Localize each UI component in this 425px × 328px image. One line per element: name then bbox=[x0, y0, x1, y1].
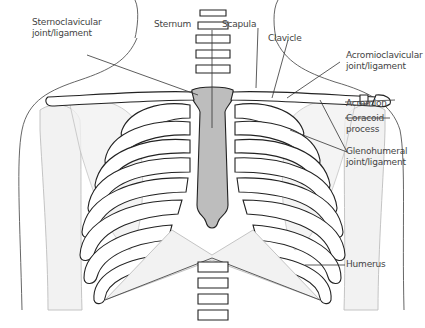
label-acromioclavicular-joint: Acromioclavicular joint/ligament bbox=[346, 50, 423, 72]
label-acromion: Acromion bbox=[346, 98, 387, 109]
label-coracoid-line1: Coracoid bbox=[346, 113, 384, 124]
anatomy-diagram: Sternoclavicular joint/ligament Sternum … bbox=[0, 0, 425, 328]
label-sternoclavicular-line1: Sternoclavicular bbox=[32, 17, 102, 28]
label-glenohumeral-line2: joint/ligament bbox=[346, 157, 407, 168]
label-coracoid-process: Coracoid process bbox=[346, 113, 384, 135]
left-neck bbox=[135, 0, 138, 38]
label-sternum: Sternum bbox=[154, 19, 191, 30]
sternum-bone bbox=[191, 87, 233, 228]
label-humerus: Humerus bbox=[346, 259, 385, 270]
left-humerus bbox=[40, 105, 82, 310]
label-acromioclavicular-line1: Acromioclavicular bbox=[346, 50, 423, 61]
label-clavicle: Clavicle bbox=[268, 33, 302, 44]
label-glenohumeral-line1: Glenohumeral bbox=[346, 146, 407, 157]
right-humerus bbox=[344, 105, 385, 310]
label-sternoclavicular-line2: joint/ligament bbox=[32, 28, 102, 39]
label-scapula: Scapula bbox=[222, 19, 256, 30]
label-acromioclavicular-line2: joint/ligament bbox=[346, 61, 423, 72]
label-sternoclavicular-joint: Sternoclavicular joint/ligament bbox=[32, 17, 102, 39]
label-coracoid-line2: process bbox=[346, 124, 384, 135]
label-glenohumeral-joint: Glenohumeral joint/ligament bbox=[346, 146, 407, 168]
